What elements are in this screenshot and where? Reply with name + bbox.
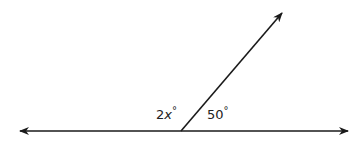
degree-symbol: ° <box>172 105 177 116</box>
angle-variable: x <box>164 107 172 122</box>
angle-label-right: 50° <box>207 108 229 121</box>
angle-label-left: 2x° <box>156 108 177 121</box>
angle-diagram: 2x° 50° <box>0 0 358 146</box>
degree-symbol: ° <box>224 105 229 116</box>
diagram-graphics <box>0 0 358 146</box>
ray <box>181 13 282 131</box>
angle-value: 50 <box>207 107 224 122</box>
